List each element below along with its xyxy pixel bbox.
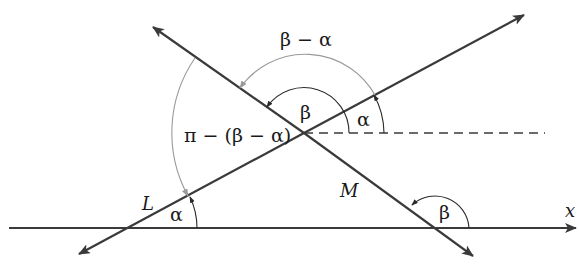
alpha-arc-axis [190,197,197,228]
label-line-L: L [141,193,154,214]
line-L-lower [79,133,304,254]
label-alpha-axis: α [170,203,183,225]
label-beta-intersection: β [300,101,311,123]
angle-between-lines-diagram: β − α π − (β − α) β α L M α β x [0,0,579,274]
label-pi-minus-beta-minus-alpha: π − (β − α) [184,124,291,146]
label-beta-minus-alpha: β − α [280,28,332,50]
alpha-arc-intersection [374,95,384,133]
label-line-M: M [339,180,359,201]
label-alpha-intersection: α [357,108,370,130]
line-M-lower [304,133,473,256]
label-x-axis: x [565,200,575,221]
diagram-canvas: β − α π − (β − α) β α L M α β x [0,0,579,274]
label-beta-axis: β [439,201,450,223]
beta-minus-alpha-arc [240,54,375,95]
line-L-upper [304,15,524,133]
